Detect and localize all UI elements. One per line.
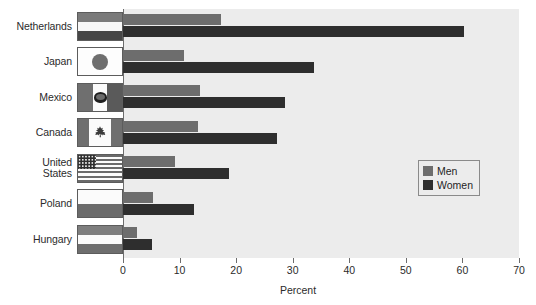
legend-label-men: Men — [437, 165, 457, 177]
legend-item-men: Men — [423, 164, 473, 178]
category-label: Hungary — [33, 234, 77, 246]
bar-women-japan — [123, 62, 314, 73]
bar-men-canada — [123, 121, 198, 132]
category-row-hungary: Hungary — [0, 224, 123, 254]
category-label: Mexico — [39, 92, 77, 104]
legend-swatch-men — [423, 166, 433, 176]
flag-canada-icon — [77, 118, 123, 147]
x-tick-label: 0 — [108, 264, 138, 276]
legend-swatch-women — [423, 180, 433, 190]
x-axis-title-text: Percent — [280, 284, 316, 296]
bar-men-united-states — [123, 156, 175, 167]
x-axis-title: Percent — [0, 284, 536, 296]
x-tick — [293, 258, 294, 263]
bar-men-netherlands — [123, 14, 221, 25]
flag-poland-icon — [77, 189, 123, 218]
legend-label-women: Women — [437, 179, 473, 191]
x-tick — [519, 258, 520, 263]
legend: Men Women — [418, 160, 480, 196]
bar-men-hungary — [123, 227, 137, 238]
x-tick-label: 50 — [391, 264, 421, 276]
x-tick-label: 10 — [165, 264, 195, 276]
flag-united-states-icon — [77, 154, 123, 183]
x-tick-label: 70 — [504, 264, 534, 276]
x-tick — [180, 258, 181, 263]
category-row-mexico: Mexico — [0, 82, 123, 112]
bar-women-poland — [123, 204, 194, 215]
bar-women-hungary — [123, 239, 152, 250]
bar-men-poland — [123, 192, 153, 203]
bar-women-mexico — [123, 97, 285, 108]
category-row-japan: Japan — [0, 47, 123, 77]
x-tick — [349, 258, 350, 263]
category-label: Netherlands — [16, 21, 77, 33]
category-axis: Netherlands Japan Mexico Canada — [0, 0, 123, 258]
bar-chart: Netherlands Japan Mexico Canada — [0, 0, 536, 305]
category-row-netherlands: Netherlands — [0, 11, 123, 41]
flag-netherlands-icon — [77, 12, 123, 41]
x-tick — [462, 258, 463, 263]
category-label: United States — [42, 157, 77, 180]
x-tick — [406, 258, 407, 263]
category-label: Japan — [44, 56, 77, 68]
category-row-united-states: United States — [0, 153, 123, 183]
flag-hungary-icon — [77, 225, 123, 254]
bar-men-japan — [123, 50, 184, 61]
flag-mexico-icon — [77, 83, 123, 112]
x-tick-label: 20 — [221, 264, 251, 276]
flag-japan-icon — [77, 47, 123, 76]
x-tick — [123, 258, 124, 263]
bar-women-united-states — [123, 168, 229, 179]
bar-men-mexico — [123, 85, 200, 96]
x-tick — [236, 258, 237, 263]
legend-item-women: Women — [423, 178, 473, 192]
x-tick-label: 30 — [278, 264, 308, 276]
category-label: Canada — [36, 127, 77, 139]
x-tick-label: 60 — [447, 264, 477, 276]
bar-women-canada — [123, 133, 277, 144]
category-row-canada: Canada — [0, 118, 123, 148]
category-label: Poland — [40, 198, 77, 210]
x-tick-label: 40 — [334, 264, 364, 276]
bar-women-netherlands — [123, 26, 464, 37]
category-row-poland: Poland — [0, 189, 123, 219]
